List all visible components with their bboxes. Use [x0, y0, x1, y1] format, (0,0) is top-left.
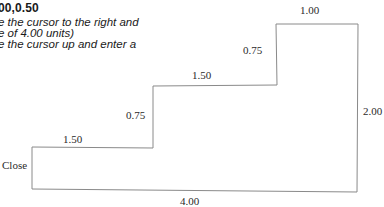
label-right-height: 2.00: [363, 106, 382, 117]
stepped-outline-diagram: [0, 0, 384, 207]
label-lower-step-width: 1.50: [63, 134, 82, 145]
close-option[interactable]: Close: [2, 160, 27, 171]
label-upper-rise: 0.75: [243, 45, 262, 56]
label-bottom-width: 4.00: [180, 196, 199, 207]
label-middle-step-width: 1.50: [192, 70, 211, 81]
outline-path: [32, 24, 358, 192]
label-top-step-width: 1.00: [300, 5, 319, 16]
label-lower-rise: 0.75: [126, 110, 145, 121]
